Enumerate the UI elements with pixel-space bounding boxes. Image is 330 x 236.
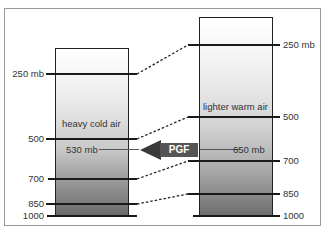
right-level-label-850: 850 [283,189,299,199]
left-level-label-250: 250 mb [8,69,44,79]
right-level-label-1000: 1000 [283,211,304,221]
right-level-label-700: 700 [283,156,299,166]
right-level-label-500: 500 [283,112,299,122]
left-level-label-500: 500 [8,134,44,144]
left-level-label-700: 700 [8,174,44,184]
warm-air-label: lighter warm air [203,101,268,112]
isobar-connector-lines [0,0,330,236]
left-level-label-1000: 1000 [8,211,44,221]
arrow-left-icon [140,140,161,160]
pgf-arrow: PGF [140,143,198,157]
left-level-label-850: 850 [8,199,44,209]
left-reference-pressure: 530 mb [66,145,98,155]
pgf-label: PGF [160,143,198,157]
cold-air-label: heavy cold air [62,118,121,129]
right-level-label-250: 250 mb [283,40,315,50]
right-reference-pressure: 650 mb [233,145,265,155]
